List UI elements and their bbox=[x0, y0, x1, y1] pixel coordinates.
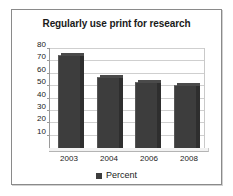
y-tick-label: 10 bbox=[37, 128, 46, 136]
bar-side-face bbox=[119, 78, 123, 148]
y-tick-label: 30 bbox=[37, 103, 46, 111]
bar-group[interactable] bbox=[174, 49, 196, 148]
x-tick-label-2008: 2008 bbox=[180, 155, 198, 163]
legend: Percent bbox=[12, 171, 221, 180]
chart-floor bbox=[49, 148, 209, 152]
y-tick-label: 40 bbox=[37, 91, 46, 99]
y-tick-label: 80 bbox=[37, 41, 46, 49]
bar-top-face bbox=[177, 83, 200, 86]
legend-swatch-percent bbox=[96, 173, 102, 179]
bar-group[interactable] bbox=[135, 49, 157, 148]
y-tick-label: 50 bbox=[37, 78, 46, 86]
plot-area: 1020304050607080 bbox=[49, 48, 205, 148]
bar-group[interactable] bbox=[58, 49, 80, 148]
bar-side-face bbox=[196, 86, 200, 148]
legend-label-percent: Percent bbox=[106, 171, 137, 180]
y-tick-label: 20 bbox=[37, 115, 46, 123]
chart-title: Regularly use print for research bbox=[12, 18, 221, 29]
y-tick-label: 60 bbox=[37, 66, 46, 74]
x-tick-label-2003: 2003 bbox=[60, 155, 78, 163]
bar-top-face bbox=[138, 80, 161, 83]
x-tick-label-2004: 2004 bbox=[100, 155, 118, 163]
bar-2008[interactable] bbox=[174, 85, 196, 148]
chart-figure: Regularly use print for research 1020304… bbox=[11, 9, 222, 185]
bars-layer bbox=[50, 49, 204, 148]
bar-group[interactable] bbox=[97, 49, 119, 148]
bar-top-face bbox=[61, 53, 84, 56]
bar-2006[interactable] bbox=[135, 82, 157, 148]
bar-top-face bbox=[100, 75, 123, 78]
y-tick-label: 70 bbox=[37, 53, 46, 61]
bar-side-face bbox=[157, 83, 161, 148]
bar-2003[interactable] bbox=[58, 55, 80, 148]
bar-2004[interactable] bbox=[97, 77, 119, 148]
x-tick-label-2006: 2006 bbox=[140, 155, 158, 163]
bar-side-face bbox=[80, 56, 84, 148]
x-axis: 2003200420062008 bbox=[49, 155, 209, 167]
